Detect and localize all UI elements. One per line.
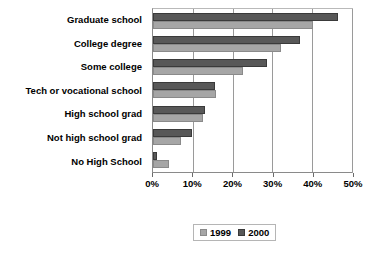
value-axis-labels: 0%10%20%30%40%50% <box>0 178 373 194</box>
bar-2000 <box>153 59 267 67</box>
bar-2000 <box>153 152 157 160</box>
category-label-text: Graduate school <box>67 15 142 25</box>
axis-tick-label: 20% <box>223 178 242 189</box>
bar-1999 <box>153 90 216 98</box>
legend-label: 1999 <box>210 227 231 238</box>
legend-swatch-icon <box>200 229 207 236</box>
category-label-text: High school grad <box>64 109 142 119</box>
bar-1999 <box>153 114 203 122</box>
bar-1999 <box>153 21 313 29</box>
axis-tick <box>353 173 354 177</box>
category-label-text: Tech or vocational school <box>26 86 143 96</box>
axis-tick-label: 40% <box>303 178 322 189</box>
bar-2000 <box>153 36 300 44</box>
bar-group <box>153 56 352 79</box>
legend-swatch-icon <box>238 229 245 236</box>
category-label: No High School <box>0 149 148 173</box>
legend-entry: 1999 <box>200 227 231 238</box>
bar-chart: Graduate schoolCollege degreeSome colleg… <box>0 0 373 253</box>
category-label: Graduate school <box>0 8 148 32</box>
axis-tick-label: 50% <box>343 178 362 189</box>
legend-label: 2000 <box>248 227 269 238</box>
category-label-text: No High School <box>71 157 142 167</box>
bar-2000 <box>153 106 205 114</box>
axis-tick <box>313 173 314 177</box>
axis-tick-label: 0% <box>145 178 159 189</box>
chart-legend: 19992000 <box>193 224 276 241</box>
bar-1999 <box>153 67 243 75</box>
bar-group <box>153 32 352 55</box>
bar-group <box>153 149 352 172</box>
category-label: College degree <box>0 32 148 56</box>
category-label: Not high school grad <box>0 126 148 150</box>
category-label: High school grad <box>0 102 148 126</box>
bar-2000 <box>153 129 192 137</box>
bar-group <box>153 102 352 125</box>
axis-tick-label: 10% <box>183 178 202 189</box>
axis-tick <box>273 173 274 177</box>
axis-tick <box>232 173 233 177</box>
category-label: Some college <box>0 55 148 79</box>
axis-tick <box>152 173 153 177</box>
axis-tick-label: 30% <box>263 178 282 189</box>
bar-group <box>153 79 352 102</box>
bar-1999 <box>153 44 281 52</box>
category-label-text: Not high school grad <box>47 133 142 143</box>
gridline <box>352 9 353 172</box>
bar-1999 <box>153 160 169 168</box>
bars-layer <box>153 9 352 172</box>
bar-group <box>153 9 352 32</box>
category-label-text: College degree <box>74 39 142 49</box>
plot-area <box>152 8 353 173</box>
category-label: Tech or vocational school <box>0 79 148 103</box>
axis-tick <box>192 173 193 177</box>
bar-1999 <box>153 137 181 145</box>
category-label-text: Some college <box>81 62 142 72</box>
bar-2000 <box>153 13 338 21</box>
legend-entry: 2000 <box>238 227 269 238</box>
bar-group <box>153 125 352 148</box>
category-axis: Graduate schoolCollege degreeSome colleg… <box>0 8 148 173</box>
bar-2000 <box>153 82 215 90</box>
